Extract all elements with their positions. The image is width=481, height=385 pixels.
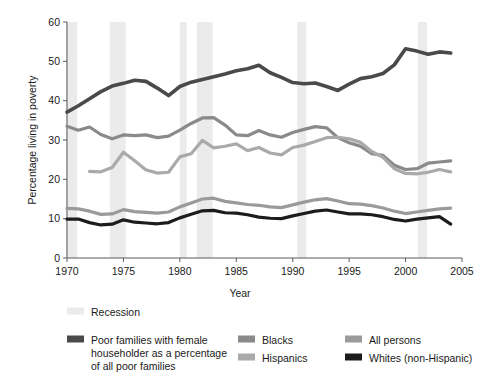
recession-band bbox=[180, 22, 187, 258]
x-axis-tick-label: 1980 bbox=[168, 265, 192, 277]
legend-swatch-poor-families bbox=[67, 336, 84, 343]
recession-band bbox=[297, 22, 306, 258]
legend-label-poor-families-line2: householder as a percentage bbox=[91, 347, 227, 359]
y-axis-tick-label: 50 bbox=[48, 55, 60, 67]
x-axis-tick-label: 1995 bbox=[337, 265, 361, 277]
legend-label-hispanics: Hispanics bbox=[262, 352, 308, 364]
x-axis-tick-label: 2005 bbox=[450, 265, 474, 277]
legend-swatch-all-persons bbox=[345, 336, 362, 343]
poverty-line-chart: 0102030405060197019751980198519901995200… bbox=[0, 0, 481, 385]
legend-label-blacks: Blacks bbox=[262, 334, 293, 346]
chart-canvas: 0102030405060197019751980198519901995200… bbox=[0, 0, 481, 385]
legend-swatch-recession bbox=[67, 308, 84, 315]
y-axis-tick-label: 40 bbox=[48, 94, 60, 106]
series-line bbox=[90, 137, 451, 174]
legend-group: RecessionPoor families with femalehouseh… bbox=[67, 306, 472, 372]
recession-band bbox=[66, 22, 77, 258]
legend-label-poor-families-line3: of all poor families bbox=[91, 360, 176, 372]
y-axis-title: Percentage living in poverty bbox=[26, 75, 38, 205]
y-axis-tick-label: 10 bbox=[48, 212, 60, 224]
recession-band bbox=[418, 22, 427, 258]
x-axis-tick-label: 2000 bbox=[394, 265, 418, 277]
x-axis-tick-label: 1985 bbox=[225, 265, 249, 277]
x-axis-tick-label: 1975 bbox=[112, 265, 136, 277]
x-axis-tick-label: 1990 bbox=[281, 265, 305, 277]
x-axis-title: Year bbox=[229, 287, 251, 299]
y-axis-tick-label: 0 bbox=[54, 252, 60, 264]
legend-swatch-blacks bbox=[238, 336, 255, 343]
y-axis-tick-label: 60 bbox=[48, 16, 60, 28]
x-axis-tick-label: 1970 bbox=[55, 265, 79, 277]
legend-swatch-whites bbox=[345, 354, 362, 361]
legend-label-poor-families-line1: Poor families with female bbox=[91, 334, 208, 346]
legend-label-recession: Recession bbox=[91, 306, 140, 318]
legend-label-whites: Whites (non-Hispanic) bbox=[369, 352, 472, 364]
legend-label-all-persons: All persons bbox=[369, 334, 421, 346]
y-axis-tick-label: 30 bbox=[48, 134, 60, 146]
y-axis-tick-label: 20 bbox=[48, 173, 60, 185]
legend-swatch-hispanics bbox=[238, 354, 255, 361]
